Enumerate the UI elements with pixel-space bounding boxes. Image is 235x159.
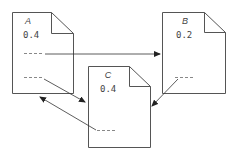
document-b-value: 0.2 xyxy=(176,30,192,40)
document-a-value: 0.4 xyxy=(23,30,39,40)
document-b: B 0.2 xyxy=(163,13,226,94)
document-a-label: A xyxy=(24,16,31,26)
document-c: C 0.4 xyxy=(89,67,151,148)
edge-c-to-a xyxy=(40,97,96,130)
document-b-label: B xyxy=(182,16,188,26)
document-a: A 0.4 xyxy=(13,13,74,94)
document-c-value: 0.4 xyxy=(100,84,116,94)
document-c-label: C xyxy=(105,70,112,80)
pagerank-diagram: A 0.4 B 0.2 C 0.4 xyxy=(0,0,235,159)
